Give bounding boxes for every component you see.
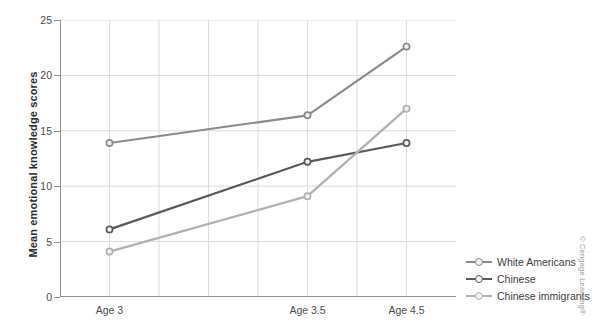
y-tick-mark [54, 75, 60, 76]
cropped-bottom-strip [0, 318, 610, 329]
y-tick-label: 25 [8, 14, 52, 26]
y-tick-label: 15 [8, 125, 52, 137]
legend-label: White Americans [497, 256, 576, 268]
legend-marker-icon [466, 290, 492, 302]
y-tick-label: 10 [8, 180, 52, 192]
y-tick-mark [54, 242, 60, 243]
legend-label: Chinese [497, 273, 536, 285]
x-tick-label: Age 3.5 [289, 304, 325, 316]
x-tick-label: Age 3 [96, 304, 123, 316]
copyright-credit: © Cengage Learning® [575, 236, 587, 326]
vertical-gridlines [110, 20, 407, 297]
chart-figure: Mean emotional knowledge scores 05101520… [0, 0, 610, 329]
y-axis-title: Mean emotional knowledge scores [22, 0, 44, 329]
legend-marker-icon [466, 273, 492, 285]
y-tick-label: 5 [8, 236, 52, 248]
y-tick-mark [54, 186, 60, 187]
y-tick-mark [54, 297, 60, 298]
y-tick-mark [54, 131, 60, 132]
legend-marker-icon [466, 256, 492, 268]
plot-area-wrapper: 0510152025 Age 3Age 3.5Age 4.5 [60, 20, 456, 297]
y-tick-label: 20 [8, 69, 52, 81]
x-tick-label: Age 4.5 [388, 304, 424, 316]
y-tick-mark [54, 20, 60, 21]
y-tick-label: 0 [8, 291, 52, 303]
line-chart-svg [60, 20, 456, 297]
